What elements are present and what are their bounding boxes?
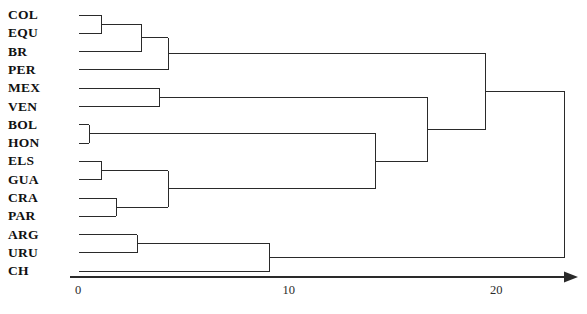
leaf-label-equ: EQU — [8, 26, 38, 40]
leaf-label-ven: VEN — [8, 100, 37, 114]
x-axis-tick-label-20: 20 — [490, 284, 503, 297]
leaf-label-uru: URU — [8, 246, 38, 260]
dendrogram-axis-layer — [70, 272, 578, 283]
leaf-label-br: BR — [8, 45, 27, 59]
x-axis-tick-label-10: 10 — [283, 284, 296, 297]
leaf-label-els: ELS — [8, 154, 34, 168]
leaf-label-col: COL — [8, 8, 38, 22]
leaf-label-per: PER — [8, 63, 36, 77]
dendrogram-canvas — [0, 0, 587, 314]
leaf-label-arg: ARG — [8, 228, 39, 242]
dendrogram-tree-layer — [79, 15, 565, 271]
x-axis-arrowhead — [564, 272, 578, 283]
leaf-label-par: PAR — [8, 209, 36, 223]
leaf-label-hon: HON — [8, 136, 40, 150]
x-axis-tick-label-0: 0 — [75, 284, 81, 297]
leaf-label-ch: CH — [8, 264, 29, 278]
dendrogram-figure: COLEQUBRPERMEXVENBOLHONELSGUACRAPARARGUR… — [0, 0, 587, 314]
leaf-label-cra: CRA — [8, 191, 38, 205]
leaf-label-bol: BOL — [8, 118, 37, 132]
leaf-label-gua: GUA — [8, 173, 39, 187]
leaf-label-mex: MEX — [8, 81, 40, 95]
